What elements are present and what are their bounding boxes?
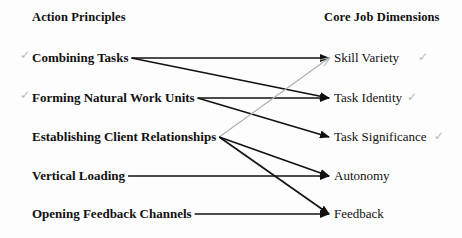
dimension-task-significance: Task Significance bbox=[334, 130, 427, 144]
connector-layer bbox=[0, 0, 462, 238]
dimension-task-identity: Task Identity bbox=[334, 91, 402, 105]
check-mark-icon: ✓ bbox=[20, 48, 30, 62]
dimension-skill-variety: Skill Variety bbox=[334, 51, 399, 65]
job-design-diagram: Action Principles Core Job Dimensions Co… bbox=[0, 0, 462, 238]
principle-forming-natural-work-units: Forming Natural Work Units bbox=[32, 91, 195, 105]
principle-establishing-client-relationships: Establishing Client Relationships bbox=[32, 130, 216, 144]
dimension-feedback: Feedback bbox=[334, 207, 384, 221]
check-mark-icon: ✓ bbox=[407, 90, 417, 104]
check-mark-icon: ✓ bbox=[418, 50, 428, 64]
principle-opening-feedback-channels: Opening Feedback Channels bbox=[32, 207, 192, 221]
arrow-forming-to-significance bbox=[198, 98, 329, 137]
check-mark-icon: ✓ bbox=[434, 129, 444, 143]
dimension-autonomy: Autonomy bbox=[334, 169, 390, 183]
principle-combining-tasks: Combining Tasks bbox=[32, 51, 128, 65]
check-mark-icon: ✓ bbox=[20, 88, 30, 102]
arrow-establishing-to-autonomy bbox=[219, 137, 329, 176]
principle-vertical-loading: Vertical Loading bbox=[32, 169, 125, 183]
